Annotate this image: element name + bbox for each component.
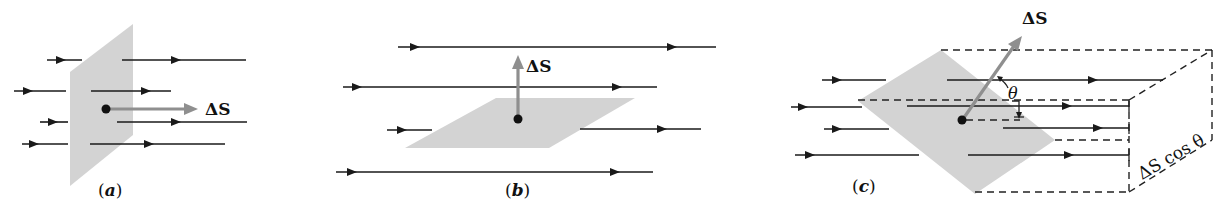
vector-label-c: ΔS <box>1022 8 1047 28</box>
center-dot-c <box>958 116 967 125</box>
surface-plane-a <box>70 24 133 186</box>
caption-a: (a) <box>98 180 122 200</box>
center-dot-b <box>514 115 523 124</box>
vector-label-a: ΔS <box>205 99 230 119</box>
projection-label: ΔS cos θ <box>1134 129 1208 183</box>
surface-plane-c <box>858 50 1055 194</box>
field-lines-b-front <box>580 125 701 133</box>
caption-b: (b) <box>505 180 530 200</box>
flux-diagram: ΔS (a) ΔS (b) <box>0 0 1224 212</box>
angle-label: θ <box>1008 84 1018 103</box>
area-vector-a-head-icon <box>184 103 198 115</box>
panel-b: ΔS (b) <box>336 43 716 200</box>
caption-c: (c) <box>852 176 876 196</box>
vector-label-b: ΔS <box>526 56 551 76</box>
area-vector-c-head-icon <box>1008 36 1022 51</box>
panel-c: θ ΔS ΔS cos θ (c) <box>791 8 1212 196</box>
panel-a: ΔS (a) <box>14 24 247 200</box>
area-vector-b-head-icon <box>512 55 524 69</box>
center-dot-a <box>102 105 111 114</box>
